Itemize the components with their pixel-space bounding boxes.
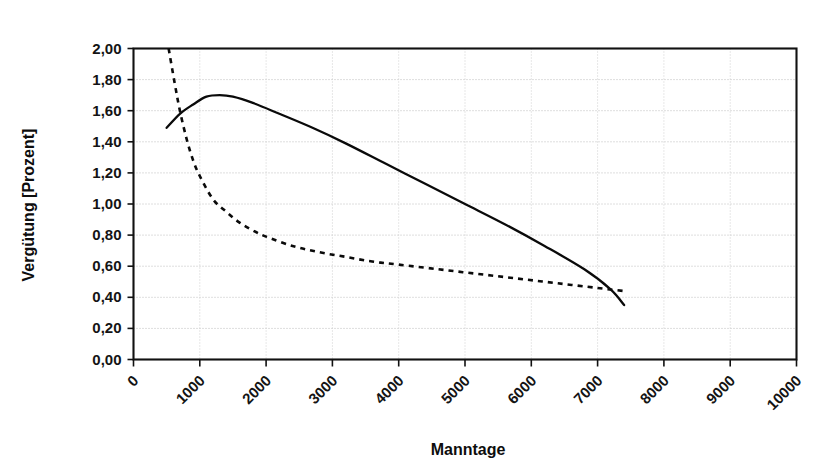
y-tick-label: 0,40 [92,288,121,305]
y-tick-label: 0,00 [92,351,121,368]
x-axis-title: Manntage [431,441,506,458]
y-tick-label: 1,00 [92,195,121,212]
y-tick-label: 1,80 [92,71,121,88]
y-tick-label: 2,00 [92,40,121,57]
y-tick-label: 0,20 [92,319,121,336]
y-tick-label: 1,20 [92,164,121,181]
y-tick-label: 1,40 [92,133,121,150]
line-chart: 0,000,200,400,600,801,001,201,401,601,80… [0,0,834,473]
y-tick-label: 1,60 [92,102,121,119]
y-tick-label: 0,60 [92,257,121,274]
y-tick-label: 0,80 [92,226,121,243]
y-axis-title: Vergütung [Prozent] [20,129,37,282]
chart-page: 0,000,200,400,600,801,001,201,401,601,80… [0,0,834,473]
